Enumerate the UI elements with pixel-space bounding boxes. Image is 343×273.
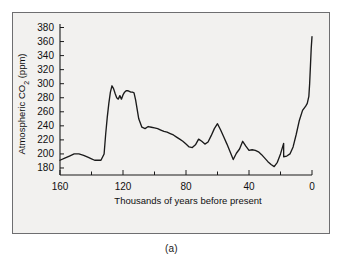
y-tick-label: 320 <box>37 64 54 75</box>
svg-text:Atmospheric CO2 (ppm): Atmospheric CO2 (ppm) <box>16 53 30 154</box>
y-axis-tick-labels: 180200220240260280300320340360380 <box>37 22 54 173</box>
y-tick-label: 340 <box>37 50 54 61</box>
y-tick-label: 300 <box>37 78 54 89</box>
y-axis-ticks <box>60 28 64 168</box>
x-tick-label: 80 <box>180 181 192 192</box>
y-tick-label: 240 <box>37 120 54 131</box>
x-axis-tick-labels: 16012080400 <box>52 181 316 192</box>
x-tick-label: 0 <box>309 181 315 192</box>
y-axis-title: Atmospheric CO2 (ppm) <box>16 53 30 154</box>
figure-container: 180200220240260280300320340360380 160120… <box>0 0 343 273</box>
y-axis-title-prefix: Atmospheric CO <box>16 85 27 155</box>
co2-data-line <box>60 37 312 167</box>
x-tick-label: 160 <box>52 181 69 192</box>
x-tick-label: 40 <box>243 181 255 192</box>
x-axis-ticks <box>60 170 312 175</box>
y-tick-label: 380 <box>37 22 54 33</box>
co2-line-chart: 180200220240260280300320340360380 160120… <box>12 12 330 234</box>
figure-caption: (a) <box>0 243 343 254</box>
y-tick-label: 180 <box>37 162 54 173</box>
x-axis-title: Thousands of years before present <box>114 195 262 206</box>
y-tick-label: 280 <box>37 92 54 103</box>
x-tick-label: 120 <box>115 181 132 192</box>
y-tick-label: 220 <box>37 134 54 145</box>
y-axis-title-suffix: (ppm) <box>16 53 27 80</box>
y-tick-label: 260 <box>37 106 54 117</box>
y-tick-label: 200 <box>37 148 54 159</box>
y-tick-label: 360 <box>37 36 54 47</box>
